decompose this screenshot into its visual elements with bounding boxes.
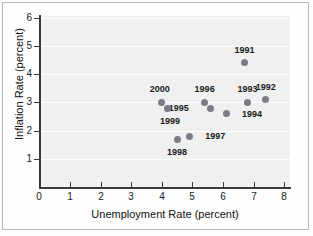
data-point-label-1999: 1999 (160, 117, 180, 126)
y-axis-tick (34, 18, 41, 19)
x-axis-tick (192, 182, 193, 189)
x-axis-tick-label: 5 (184, 192, 200, 202)
data-point-label-1993: 1993 (237, 85, 257, 94)
x-axis-tick (101, 182, 102, 189)
data-point-label-1996: 1996 (195, 85, 215, 94)
x-axis-tick-label: 3 (123, 192, 139, 202)
data-point-1995 (207, 105, 214, 112)
x-axis-tick (162, 182, 163, 189)
x-axis-tick-label: 0 (31, 192, 47, 202)
data-point-label-1991: 1991 (234, 46, 254, 55)
x-axis-tick-label: 2 (93, 192, 109, 202)
x-axis-tick-label: 8 (276, 192, 292, 202)
x-axis-tick (254, 182, 255, 189)
data-point-1993 (244, 99, 251, 106)
x-axis-tick-label: 7 (246, 192, 262, 202)
x-axis-tick (70, 182, 71, 189)
data-point-label-1998: 1998 (167, 148, 187, 157)
x-axis-tick (223, 182, 224, 189)
data-point-1996 (201, 99, 208, 106)
x-axis-tick-label: 1 (62, 192, 78, 202)
y-axis-tick (34, 102, 41, 103)
y-axis-title: Inflation Rate (percent) (13, 8, 25, 160)
y-axis-tick (34, 131, 41, 132)
scatter-chart-figure: 123456 012345678 19911992199319941995199… (0, 0, 313, 236)
gridline (39, 18, 290, 19)
data-point-label-1992: 1992 (256, 83, 276, 92)
data-point-label-1997: 1997 (205, 132, 225, 141)
x-axis-title: Unemployment Rate (percent) (39, 208, 291, 220)
data-point-1998 (174, 136, 181, 143)
data-point-label-1995: 1995 (169, 104, 189, 113)
data-point-1994 (223, 110, 230, 117)
x-axis-tick-label: 4 (154, 192, 170, 202)
x-axis-tick (131, 182, 132, 189)
data-point-label-2000: 2000 (150, 85, 170, 94)
x-axis-tick-label: 6 (215, 192, 231, 202)
gridline (39, 159, 290, 160)
data-point-1999 (164, 105, 171, 112)
data-point-1997 (186, 133, 193, 140)
gridline (39, 74, 290, 75)
data-point-label-1994: 1994 (242, 110, 262, 119)
gridline (39, 131, 290, 132)
y-axis-tick (34, 74, 41, 75)
y-axis-tick (34, 159, 41, 160)
x-axis-tick (284, 182, 285, 189)
y-axis-tick (34, 46, 41, 47)
